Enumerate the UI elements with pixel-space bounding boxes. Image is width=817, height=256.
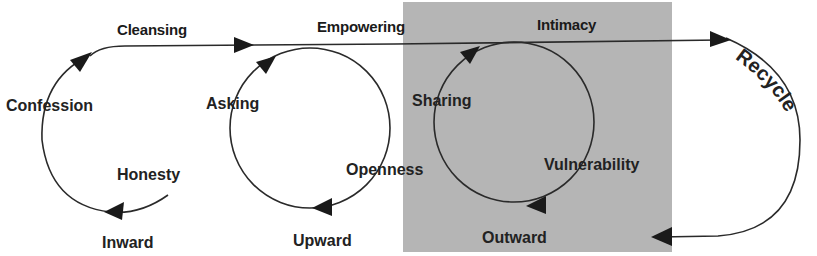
stage-label-empowering: Empowering: [317, 18, 405, 35]
empowering-loop: [230, 48, 390, 208]
direction-label-upward: Upward: [293, 232, 352, 249]
step-label-asking: Asking: [206, 95, 259, 112]
step-label-vulnerability: Vulnerability: [544, 156, 640, 173]
step-label-honesty: Honesty: [117, 166, 180, 183]
step-label-confession: Confession: [6, 97, 93, 114]
step-label-sharing: Sharing: [412, 92, 472, 109]
arrow-head-cleansing-bottom: [104, 202, 124, 220]
arrow-head-to-recycle: [710, 31, 731, 47]
cycle-diagram: Cleansing Empowering Intimacy Confession…: [0, 0, 817, 256]
arrow-head-empowering-up: [256, 56, 276, 74]
step-label-openness: Openness: [346, 161, 423, 178]
intimacy-highlight-box: [403, 2, 672, 252]
direction-label-outward: Outward: [482, 229, 547, 246]
recycle-arc: [660, 38, 800, 237]
recycle-label-text: Recycle: [732, 44, 801, 115]
cleansing-loop: [42, 56, 168, 212]
stage-label-intimacy: Intimacy: [537, 16, 597, 33]
recycle-label: Recycle: [732, 44, 801, 115]
direction-label-inward: Inward: [102, 234, 154, 251]
arrow-head-to-empowering: [234, 37, 254, 53]
arrow-head-cleansing-up: [70, 52, 92, 72]
stage-label-cleansing: Cleansing: [117, 21, 187, 38]
arrow-head-empowering-bottom: [312, 198, 332, 216]
